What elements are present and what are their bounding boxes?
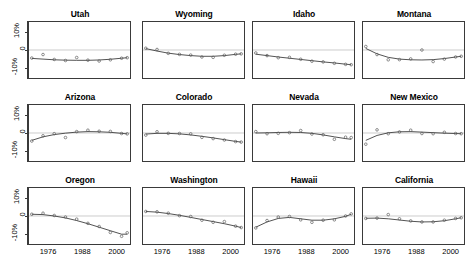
data-point — [333, 138, 336, 141]
trend-line — [256, 54, 351, 65]
x-tick-label: 1976 — [40, 247, 57, 256]
panel-title: Utah — [28, 8, 132, 21]
y-tick-label: -10% — [2, 228, 24, 237]
small-multiples-chart: Utah10%0-10%WyomingIdahoMontanaArizona10… — [0, 0, 476, 275]
panel-california: California197619882000 — [362, 174, 466, 258]
data-point — [387, 58, 390, 61]
plot-area — [362, 21, 465, 79]
panel-title: Wyoming — [142, 8, 246, 21]
panel-wyoming: Wyoming — [142, 8, 246, 92]
panel-montana: Montana — [362, 8, 466, 92]
x-tick-label: 2000 — [332, 247, 349, 256]
data-point — [109, 231, 112, 234]
x-tick-label: 1976 — [264, 247, 281, 256]
panel-hawaii: Hawaii197619882000 — [252, 174, 356, 258]
trend-line — [146, 133, 241, 142]
data-point — [409, 129, 412, 132]
plot-area — [142, 104, 245, 162]
data-point — [75, 218, 78, 221]
data-point — [42, 212, 45, 215]
x-tick-label: 1988 — [188, 247, 205, 256]
panel-new-mexico: New Mexico — [362, 91, 466, 175]
panel-idaho: Idaho — [252, 8, 356, 92]
x-tick-label: 1976 — [374, 247, 391, 256]
y-tick-label-text: 0 — [17, 212, 26, 216]
y-tick — [25, 234, 28, 235]
data-point — [120, 235, 123, 238]
data-point — [87, 129, 90, 132]
y-tick-label-text: 0 — [17, 46, 26, 50]
chart-row: Arizona10%0-10%ColoradoNevadaNew Mexico — [0, 91, 476, 175]
panel-washington: Washington197619882000 — [142, 174, 246, 258]
y-axis: 10%0-10% — [2, 21, 28, 79]
y-tick-label-text: 10% — [12, 23, 21, 38]
x-axis: 197619882000 — [252, 245, 355, 258]
panel-title: Washington — [142, 174, 246, 187]
y-tick-label: 0 — [2, 44, 24, 53]
y-axis: 10%0-10% — [2, 104, 28, 162]
data-point — [64, 136, 67, 139]
plot-area — [28, 21, 131, 79]
y-tick-label-text: 0 — [17, 129, 26, 133]
x-tick-label: 2000 — [222, 247, 239, 256]
y-tick-label: 0 — [2, 127, 24, 136]
panel-nevada: Nevada — [252, 91, 356, 175]
data-point — [432, 60, 435, 63]
panel-utah: Utah10%0-10% — [28, 8, 132, 92]
y-tick — [25, 115, 28, 116]
trend-line — [146, 211, 241, 227]
x-axis: 197619882000 — [362, 245, 465, 258]
data-point — [311, 221, 314, 224]
y-tick-label-text: 10% — [12, 106, 21, 121]
x-tick-label: 1988 — [408, 247, 425, 256]
panel-title: Montana — [362, 8, 466, 21]
y-tick-label: 0 — [2, 210, 24, 219]
plot-area — [142, 187, 245, 245]
data-point — [266, 219, 269, 222]
y-tick-label: -10% — [2, 62, 24, 71]
x-tick-label: 1976 — [154, 247, 171, 256]
data-point — [344, 136, 347, 139]
y-tick — [25, 68, 28, 69]
trend-line — [32, 58, 127, 61]
panel-title: Idaho — [252, 8, 356, 21]
panel-oregon: Oregon10%0-10%197619882000 — [28, 174, 132, 258]
panel-title: Colorado — [142, 91, 246, 104]
plot-area — [28, 104, 131, 162]
x-tick-label: 1988 — [298, 247, 315, 256]
data-point — [376, 129, 379, 132]
x-tick-label: 2000 — [442, 247, 459, 256]
y-tick-label: 10% — [2, 26, 24, 35]
panel-arizona: Arizona10%0-10% — [28, 91, 132, 175]
data-point — [223, 220, 226, 223]
data-point — [350, 136, 353, 139]
data-point — [144, 47, 147, 50]
data-point — [42, 53, 45, 56]
data-point — [126, 231, 129, 234]
y-tick-label-text: -10% — [11, 141, 20, 159]
plot-area — [142, 21, 245, 79]
y-tick — [25, 32, 28, 33]
chart-row: Utah10%0-10%WyomingIdahoMontana — [0, 8, 476, 92]
data-point — [75, 56, 78, 59]
y-tick-label: 10% — [2, 109, 24, 118]
plot-area — [252, 21, 355, 79]
y-tick-label: 10% — [2, 192, 24, 201]
x-axis: 197619882000 — [28, 245, 131, 258]
x-tick-label: 2000 — [108, 247, 125, 256]
x-tick-label: 1988 — [74, 247, 91, 256]
panel-title: Hawaii — [252, 174, 356, 187]
trend-line — [32, 214, 127, 234]
data-point — [364, 45, 367, 48]
data-point — [254, 52, 257, 55]
data-point — [421, 132, 424, 135]
y-tick — [25, 151, 28, 152]
y-tick-label: -10% — [2, 145, 24, 154]
chart-row: Oregon10%0-10%197619882000Washington1976… — [0, 174, 476, 258]
y-tick — [25, 198, 28, 199]
panel-title: California — [362, 174, 466, 187]
plot-area — [252, 187, 355, 245]
y-tick-label-text: 10% — [12, 189, 21, 204]
y-tick-label-text: -10% — [11, 58, 20, 76]
panel-colorado: Colorado — [142, 91, 246, 175]
